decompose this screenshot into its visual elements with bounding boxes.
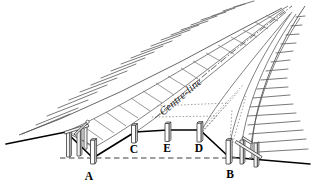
carriageway-left-line <box>133 12 286 134</box>
cross-section-polyline <box>93 130 229 158</box>
road-left-edge-inner <box>68 6 288 131</box>
label-point-b: B <box>226 168 234 180</box>
label-point-e: E <box>163 142 171 154</box>
label-centre-line: Centre-line <box>157 75 204 118</box>
figure-canvas: A B C E D Centre-line <box>0 0 316 186</box>
peg-c <box>132 124 138 143</box>
peg-a <box>91 139 97 164</box>
existing-ground-line-left <box>6 132 66 144</box>
label-point-a: A <box>85 170 94 182</box>
label-point-c: C <box>130 143 138 155</box>
peg-b <box>226 139 232 164</box>
peg-e <box>165 122 171 141</box>
road-setting-out-figure: A B C E D Centre-line <box>0 0 316 186</box>
peg-d <box>197 122 203 142</box>
profile-board-cluster-right <box>235 137 262 168</box>
label-point-d: D <box>195 142 203 154</box>
